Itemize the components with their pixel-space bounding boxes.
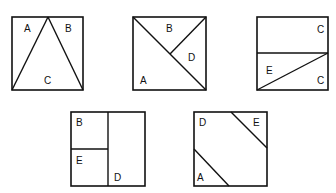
piece-label: A [24, 23, 31, 34]
piece-label: A [140, 75, 147, 86]
piece-label: E [76, 155, 83, 166]
piece-label: E [253, 117, 260, 128]
dissection-diagram: A B C B D A C E C B E D D E A [0, 0, 336, 193]
piece-label: C [44, 75, 51, 86]
piece-label: D [199, 117, 206, 128]
square-3: C E C [257, 17, 328, 90]
square-2: B D A [133, 17, 206, 90]
piece-label: D [114, 172, 121, 183]
piece-label: C [317, 75, 324, 86]
square-1: A B C [12, 17, 83, 90]
square-4: B E D [71, 112, 145, 186]
piece-label: E [266, 65, 273, 76]
square-2-inner-cut [170, 17, 206, 54]
piece-label: B [166, 23, 173, 34]
square-5-upper-cut [231, 112, 267, 148]
piece-label: C [317, 24, 324, 35]
piece-label: D [188, 52, 195, 63]
piece-label: A [197, 172, 204, 183]
piece-label: B [76, 117, 83, 128]
square-5: D E A [194, 112, 267, 186]
piece-label: B [65, 23, 72, 34]
